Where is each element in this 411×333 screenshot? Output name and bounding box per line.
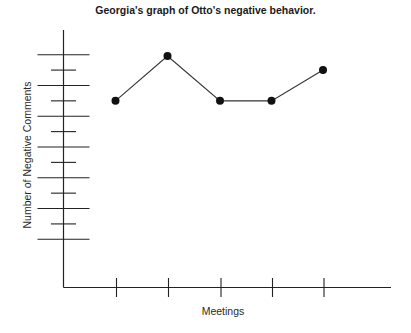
- data-point-marker: [164, 52, 172, 60]
- data-point-marker: [268, 97, 276, 105]
- data-point-marker: [216, 97, 224, 105]
- axes: [64, 30, 392, 288]
- data-markers: [112, 52, 328, 105]
- series-line: [116, 56, 324, 101]
- data-point-marker: [319, 66, 327, 74]
- chart-canvas: [0, 0, 411, 333]
- data-point-marker: [112, 97, 120, 105]
